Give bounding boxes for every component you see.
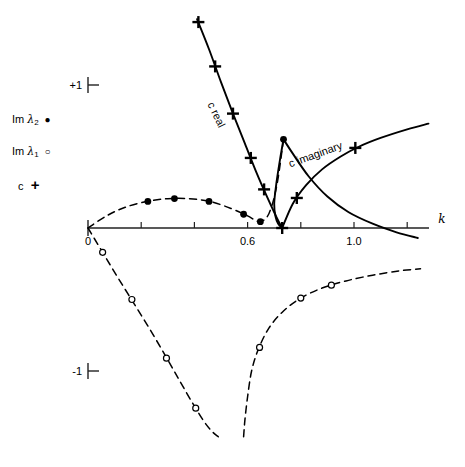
legend-label-c: c bbox=[18, 180, 24, 192]
legend-label-im-lambda-1: Im λ1 bbox=[12, 145, 39, 157]
legend-item-im-lambda-2: Im λ2 ● bbox=[12, 113, 51, 127]
data-point-filled-circle bbox=[171, 195, 178, 202]
data-point-plus bbox=[209, 60, 221, 72]
y-axis-tick-label: +1 bbox=[69, 79, 82, 91]
data-point-open-circle bbox=[100, 249, 106, 255]
x-axis-tick-label: 0.6 bbox=[240, 235, 255, 247]
series-curve bbox=[88, 139, 284, 228]
series-curve bbox=[282, 124, 428, 228]
data-point-filled-circle bbox=[240, 211, 247, 218]
plot-canvas: 00.61.0+1-1kc realc imaginary bbox=[0, 0, 465, 467]
legend-label-im-lambda-2: Im λ2 bbox=[12, 113, 39, 125]
data-point-plus bbox=[227, 108, 239, 120]
data-point-open-circle bbox=[257, 344, 263, 350]
data-point-open-circle bbox=[193, 405, 199, 411]
series-curve bbox=[197, 19, 282, 228]
legend-item-im-lambda-1: Im λ1 ○ bbox=[12, 145, 51, 159]
data-point-plus bbox=[349, 142, 361, 154]
data-point-plus bbox=[258, 183, 270, 195]
figure-root: 00.61.0+1-1kc realc imaginary Im λ2 ● Im… bbox=[0, 0, 465, 467]
c-imaginary-label: c imaginary bbox=[287, 139, 344, 170]
data-point-filled-circle bbox=[280, 136, 287, 143]
series-curve bbox=[88, 228, 218, 437]
open-circle-icon: ○ bbox=[42, 146, 51, 157]
data-point-open-circle bbox=[129, 297, 135, 303]
x-axis-tick-label: 1.0 bbox=[346, 235, 361, 247]
y-axis-tick-label: -1 bbox=[72, 365, 82, 377]
legend-item-c: c + bbox=[18, 176, 40, 193]
filled-circle-icon: ● bbox=[42, 114, 51, 125]
data-point-filled-circle bbox=[144, 198, 151, 205]
x-axis-tick-label: 0 bbox=[85, 235, 91, 247]
x-axis-name: k bbox=[438, 212, 445, 226]
plus-icon: + bbox=[27, 176, 40, 193]
data-point-plus bbox=[192, 16, 204, 28]
series-curve bbox=[244, 269, 421, 437]
data-point-open-circle bbox=[163, 355, 169, 361]
data-point-filled-circle bbox=[206, 198, 213, 205]
c-real-label: c real bbox=[205, 100, 228, 129]
data-point-open-circle bbox=[298, 295, 304, 301]
data-point-open-circle bbox=[328, 282, 334, 288]
data-point-filled-circle bbox=[257, 218, 264, 225]
data-point-plus bbox=[245, 152, 257, 164]
